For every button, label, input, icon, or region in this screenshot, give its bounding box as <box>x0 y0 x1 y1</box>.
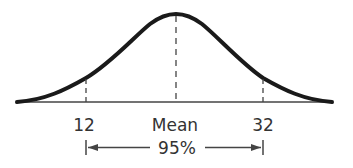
label-left: 12 <box>73 115 95 135</box>
label-interval: 95% <box>158 138 196 158</box>
label-mean: Mean <box>152 115 198 135</box>
normal-curve-diagram: 12 Mean 32 95% <box>0 0 353 168</box>
arrow-left-icon <box>88 144 98 151</box>
label-right: 32 <box>252 115 274 135</box>
bell-curve <box>17 14 332 102</box>
arrow-right-icon <box>251 144 261 151</box>
